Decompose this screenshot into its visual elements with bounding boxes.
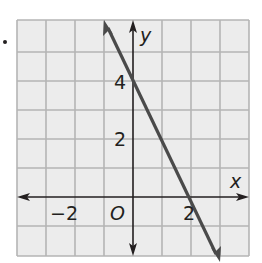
x-tick-label-neg2: −2 — [50, 202, 78, 224]
x-axis-label: x — [229, 170, 242, 192]
origin-label: O — [110, 202, 125, 224]
y-tick-label-2: 2 — [114, 128, 126, 150]
coordinate-graph: y x O −2 2 2 4 — [0, 0, 262, 263]
bullet-dot — [3, 40, 7, 44]
y-axis-label: y — [139, 24, 152, 46]
y-tick-label-4: 4 — [114, 71, 126, 93]
x-tick-label-2: 2 — [183, 202, 195, 224]
